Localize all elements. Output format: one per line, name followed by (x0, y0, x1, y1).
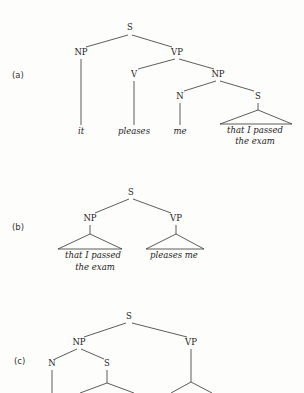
triangle (171, 382, 212, 393)
tree-b-label: (b) (12, 222, 24, 232)
triangle (58, 234, 122, 249)
edge (220, 81, 254, 91)
node-s2: S (255, 91, 261, 101)
tree-a: (a) S NP VP V NP N S it pleases me that … (12, 22, 292, 146)
triangle (220, 110, 292, 124)
node-np: NP (74, 47, 87, 57)
node-np: NP (72, 337, 85, 347)
clause-line1: that I passed (227, 125, 283, 135)
word-pleases-me: pleases me (150, 250, 198, 260)
edge (95, 199, 129, 213)
node-v: V (130, 69, 138, 79)
node-n: N (176, 91, 184, 101)
edge (133, 199, 171, 213)
clause-line2: the exam (75, 262, 115, 272)
node-n: N (48, 358, 56, 368)
syntax-trees-diagram: (a) S NP VP V NP N S it pleases me that … (0, 0, 304, 393)
node-np: NP (83, 213, 96, 223)
edge (184, 81, 216, 91)
edge (84, 323, 126, 337)
clause-line1: that I passed (65, 250, 121, 260)
node-vp: VP (184, 337, 197, 347)
edge (81, 349, 104, 359)
edge (138, 59, 175, 69)
word-pleases: pleases (118, 126, 151, 136)
edge (132, 35, 172, 47)
node-s: S (127, 22, 133, 32)
edge (179, 59, 214, 69)
node-np2: NP (211, 69, 224, 79)
edge (86, 35, 128, 47)
node-s: S (126, 311, 132, 321)
tree-c: (c) S NP VP N S (14, 311, 212, 393)
word-it: it (78, 126, 85, 136)
tree-b: (b) S NP VP that I passed the exam pleas… (12, 187, 204, 272)
node-s2: S (104, 358, 110, 368)
node-s: S (128, 187, 134, 197)
tree-c-label: (c) (14, 356, 25, 366)
node-vp: VP (170, 47, 183, 57)
clause-line2: the exam (235, 136, 275, 146)
node-vp: VP (169, 213, 182, 223)
tree-a-label: (a) (12, 70, 24, 80)
triangle (80, 383, 134, 393)
edge (132, 323, 187, 337)
word-me: me (173, 126, 186, 136)
edge (55, 349, 77, 359)
triangle (146, 234, 204, 249)
